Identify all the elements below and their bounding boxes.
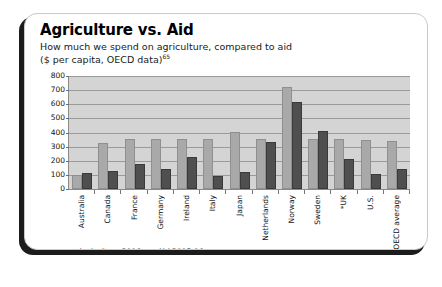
legend-label: Agriculture 2006 (78, 247, 141, 250)
y-axis-tick-label: 200 (37, 157, 65, 165)
bar-aid (266, 142, 276, 189)
x-axis-label: OECD average (393, 195, 401, 250)
x-axis-label-cell: Norway (279, 195, 305, 241)
bar-group (148, 76, 174, 189)
bar-aid (240, 172, 250, 189)
x-axis-tick (279, 190, 305, 194)
bar-aid (397, 169, 407, 189)
x-axis-tick (358, 190, 384, 194)
bar-group (331, 76, 357, 189)
bar-aid (371, 174, 381, 189)
x-axis-label-cell: Canada (95, 195, 121, 241)
bar-agriculture (387, 141, 397, 189)
x-axis-label-cell: Ireland (174, 195, 200, 241)
x-axis-label-cell: Italy (200, 195, 226, 241)
bar-agriculture (125, 139, 135, 189)
bar-agriculture (334, 139, 344, 189)
legend-item: Aid 2005-06 (150, 247, 204, 250)
x-axis-label-cell: France (121, 195, 147, 241)
x-axis-tick (384, 190, 410, 194)
x-axis-tick (148, 190, 174, 194)
x-axis-labels: AustraliaCanadaFranceGermanyIrelandItaly… (69, 195, 410, 241)
x-axis-label: Australia (78, 195, 86, 228)
y-axis-tick-label: 600 (37, 100, 65, 108)
bar-agriculture (230, 132, 240, 189)
x-axis-label-cell: Netherlands (253, 195, 279, 241)
bar-group (384, 76, 410, 189)
x-axis-label-cell: Germany (148, 195, 174, 241)
card-subtitle: How much we spend on agriculture, compar… (40, 41, 415, 66)
x-axis-tick (331, 190, 357, 194)
page-title: Agriculture vs. Aid (40, 22, 415, 39)
x-axis-label: Netherlands (262, 195, 270, 241)
x-axis-ticks (69, 190, 410, 194)
x-axis-label: France (131, 195, 139, 220)
bar-aid (213, 176, 223, 189)
card-subtitle-line2: ($ per capita, OECD data) (40, 54, 162, 65)
bar-groups (69, 76, 410, 189)
x-axis-label: Sweden (314, 195, 322, 225)
x-axis-tick (200, 190, 226, 194)
bar-aid (82, 173, 92, 189)
bar-chart: 8007006005004003002001000 AustraliaCanad… (37, 74, 417, 244)
chart-card: Agriculture vs. Aid How much we spend on… (24, 13, 428, 250)
x-axis-label: *UK (340, 195, 348, 209)
bar-group (253, 76, 279, 189)
x-axis-label: Japan (236, 195, 244, 216)
bar-agriculture (72, 175, 82, 189)
bar-agriculture (256, 139, 266, 189)
x-axis-label-cell: Australia (69, 195, 95, 241)
x-axis-tick (305, 190, 331, 194)
x-axis-tick (69, 190, 95, 194)
legend-swatch-icon (150, 249, 155, 250)
x-axis-tick (226, 190, 252, 194)
x-axis-label: Norway (288, 195, 296, 223)
y-axis-tick-label: 800 (37, 72, 65, 80)
x-axis-label: U.S. (367, 195, 375, 210)
bar-group (305, 76, 331, 189)
y-axis-tick-label: 0 (37, 185, 65, 193)
card-subtitle-line1: How much we spend on agriculture, compar… (40, 41, 292, 52)
bar-agriculture (151, 139, 161, 189)
bar-agriculture (282, 87, 292, 189)
screenshot-root: Agriculture vs. Aid How much we spend on… (0, 0, 442, 287)
x-axis-label: Canada (104, 195, 112, 224)
bar-agriculture (361, 140, 371, 189)
bar-aid (344, 159, 354, 189)
bar-aid (187, 157, 197, 189)
bar-agriculture (203, 139, 213, 189)
bar-group (69, 76, 95, 189)
x-axis-tick (253, 190, 279, 194)
bar-group (174, 76, 200, 189)
bar-aid (161, 169, 171, 189)
x-axis-label: Ireland (183, 195, 191, 221)
bar-agriculture (98, 143, 108, 189)
x-axis-label-cell: OECD average (384, 195, 410, 241)
bar-aid (135, 164, 145, 189)
x-axis-tick (174, 190, 200, 194)
y-axis-tick-label: 400 (37, 129, 65, 137)
legend-swatch-icon (70, 249, 75, 250)
bar-agriculture (177, 139, 187, 189)
bar-group (95, 76, 121, 189)
x-axis-label-cell: *UK (331, 195, 357, 241)
y-axis-tick-label: 100 (37, 171, 65, 179)
bar-group (226, 76, 252, 189)
bar-group (279, 76, 305, 189)
y-axis-tick-label: 500 (37, 114, 65, 122)
x-axis-tick (121, 190, 147, 194)
card-header: Agriculture vs. Aid How much we spend on… (40, 22, 415, 66)
card-subtitle-footnote: 65 (162, 52, 170, 59)
y-axis-tick-label: 700 (37, 86, 65, 94)
x-axis-tick (95, 190, 121, 194)
x-axis-label: Germany (157, 195, 165, 229)
x-axis-label-cell: U.S. (358, 195, 384, 241)
bar-group (200, 76, 226, 189)
y-axis-tick-label: 300 (37, 143, 65, 151)
bar-group (358, 76, 384, 189)
bar-agriculture (308, 139, 318, 189)
bar-aid (318, 131, 328, 190)
legend-item: Agriculture 2006 (70, 247, 141, 250)
legend-label: Aid 2005-06 (158, 247, 204, 250)
x-axis-label-cell: Sweden (305, 195, 331, 241)
